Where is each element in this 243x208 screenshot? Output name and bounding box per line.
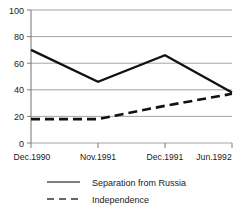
x-tick-label-jun-1992: Jun.1992 — [196, 152, 232, 162]
line-chart: 100 80 60 40 20 0 Dec.1990 Nov.1991 Dec.… — [0, 0, 243, 208]
x-tick-label-dec-1990: Dec.1990 — [14, 152, 51, 162]
y-tick-label-0: 0 — [19, 139, 24, 149]
y-tick-label-100: 100 — [9, 6, 24, 16]
series-independence — [31, 94, 232, 119]
x-tick-marks — [31, 143, 232, 148]
legend-label-independence: Independence — [92, 195, 149, 205]
y-tick-label-40: 40 — [14, 85, 24, 95]
y-tick-label-20: 20 — [14, 112, 24, 122]
chart-canvas: 100 80 60 40 20 0 Dec.1990 Nov.1991 Dec.… — [0, 0, 243, 208]
x-tick-label-nov-1991: Nov.1991 — [80, 152, 116, 162]
x-tick-label-dec-1991: Dec.1991 — [147, 152, 184, 162]
chart-legend: Separation from Russia Independence — [47, 178, 186, 205]
y-tick-marks — [27, 10, 31, 143]
series-separation-from-russia — [31, 50, 232, 93]
y-tick-label-80: 80 — [14, 32, 24, 42]
legend-label-separation-from-russia: Separation from Russia — [92, 178, 186, 188]
y-tick-label-60: 60 — [14, 59, 24, 69]
